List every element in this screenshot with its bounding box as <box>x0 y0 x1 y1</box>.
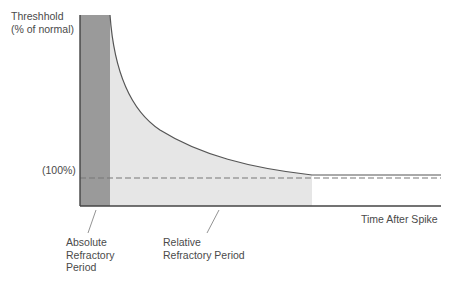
absolute-leader-line <box>88 210 96 233</box>
relative-label-line2: Refractory Period <box>163 249 245 262</box>
x-axis-label: Time After Spike <box>361 213 438 226</box>
absolute-label-line1: Absolute <box>66 236 114 249</box>
relative-refractory-label: Relative Refractory Period <box>163 236 245 261</box>
absolute-refractory-region <box>80 15 110 206</box>
y-axis-label-line2: (% of normal) <box>11 23 74 36</box>
relative-leader-line <box>207 210 219 233</box>
y-axis-label: Threshhold (% of normal) <box>11 10 74 35</box>
relative-refractory-region <box>110 15 312 206</box>
absolute-label-line2: Refractory <box>66 249 114 262</box>
absolute-refractory-label: Absolute Refractory Period <box>66 236 114 274</box>
absolute-label-line3: Period <box>66 261 114 274</box>
y-axis-label-line1: Threshhold <box>11 10 74 23</box>
baseline-label: (100%) <box>42 164 76 177</box>
relative-label-line1: Relative <box>163 236 245 249</box>
